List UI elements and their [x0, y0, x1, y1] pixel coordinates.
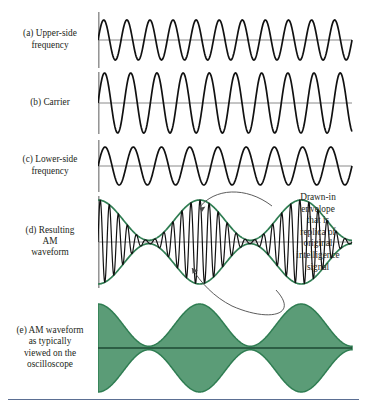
bottom-rule [8, 399, 359, 400]
leader-lines [0, 0, 367, 412]
am-waveform-figure: (a) Upper-sidefrequency(b) Carrier(c) Lo… [0, 0, 367, 412]
